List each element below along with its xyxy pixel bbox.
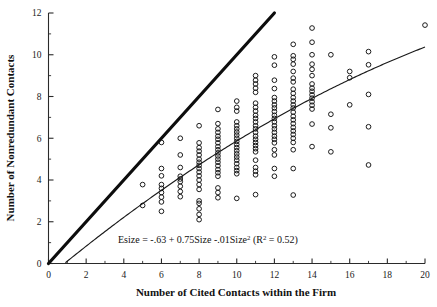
x-tick-label: 18 (383, 270, 393, 280)
equation-middle: (R (250, 234, 263, 246)
x-tick-label: 0 (46, 270, 51, 280)
equation-lead: Esize = -.63 + 0.75Size -.01Size (118, 234, 248, 245)
y-tick-label: 8 (37, 92, 42, 102)
x-tick-label: 16 (345, 270, 355, 280)
regression-equation-annotation: Esize = -.63 + 0.75Size -.01Size2 (R2 = … (118, 234, 298, 247)
y-axis-title: Number of Nonredundant Contacts (4, 54, 16, 221)
x-axis-title: Number of Cited Contacts within the Firm (136, 286, 336, 298)
y-tick-label: 6 (37, 134, 42, 144)
scatter-plot: 02468101214161820 024681012 Esize = -.63… (0, 0, 437, 307)
y-tick-label: 4 (37, 175, 42, 185)
y-tick-label: 0 (37, 259, 42, 269)
y-tick-label: 12 (32, 8, 42, 18)
chart-figure: 02468101214161820 024681012 Esize = -.63… (0, 0, 437, 307)
x-tick-label: 14 (307, 270, 317, 280)
x-tick-label: 20 (420, 270, 430, 280)
x-tick-label: 2 (84, 270, 89, 280)
x-tick-label: 10 (232, 270, 242, 280)
x-tick-label: 12 (270, 270, 280, 280)
y-tick-label: 2 (37, 217, 42, 227)
equation-tail: = 0.52) (266, 234, 297, 246)
y-tick-label: 10 (32, 50, 42, 60)
x-tick-label: 8 (197, 270, 202, 280)
x-tick-label: 6 (159, 270, 164, 280)
x-tick-label: 4 (121, 270, 126, 280)
